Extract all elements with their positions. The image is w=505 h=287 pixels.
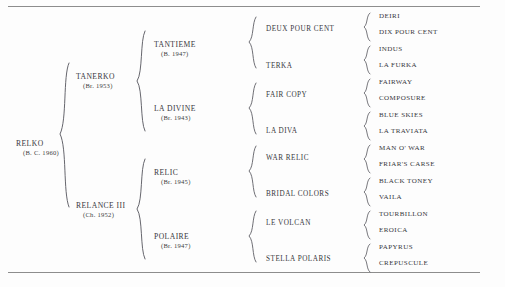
pedigree-node-blue-skies: BLUE SKIES — [379, 112, 423, 120]
node-name: RELANCE III — [76, 202, 125, 211]
node-name: INDUS — [379, 46, 403, 54]
node-name: DEIRI — [379, 13, 400, 21]
pedigree-node-vaila: VAILA — [379, 194, 402, 202]
pedigree-node-black-toney: BLACK TONEY — [379, 178, 433, 186]
brace-relic-to-gen4 — [248, 145, 259, 198]
node-name: RELIC — [154, 169, 191, 178]
node-name: DIX POUR CENT — [379, 29, 438, 37]
brace-tantieme-to-gen4 — [248, 16, 259, 69]
node-name: LA DIVINE — [154, 105, 196, 114]
brace-relance-to-gen3 — [136, 158, 148, 260]
pedigree-node-relic: RELIC (Br. 1945) — [154, 169, 191, 185]
pedigree-node-relance-iii: RELANCE III (Ch. 1952) — [76, 202, 125, 218]
brace-la-divine-to-gen4 — [248, 82, 259, 135]
pedigree-node-bridal-colors: BRIDAL COLORS — [266, 190, 329, 198]
pedigree-page: RELKO (B. C. 1960) TANERKO (Br. 1953) RE… — [0, 0, 505, 287]
brace-terka-to-gen5 — [363, 45, 372, 75]
node-name: CREPUSCULE — [379, 260, 428, 268]
brace-stella-polaris-to-gen5 — [363, 243, 372, 273]
node-name: LE VOLCAN — [266, 219, 311, 227]
brace-tanerko-to-gen3 — [136, 30, 148, 132]
node-name: TERKA — [266, 62, 292, 70]
node-name: FAIR COPY — [266, 91, 307, 99]
node-name: VAILA — [379, 194, 402, 202]
node-name: PAPYRUS — [379, 244, 413, 252]
pedigree-node-crepuscule: CREPUSCULE — [379, 260, 428, 268]
node-year: (Br. 1943) — [154, 114, 196, 121]
top-rule — [8, 6, 480, 7]
node-name: TANTIEME — [154, 41, 196, 50]
node-name: MAN O' WAR — [379, 145, 425, 153]
pedigree-node-le-volcan: LE VOLCAN — [266, 219, 311, 227]
node-name: LA DIVA — [266, 127, 298, 135]
node-name: FAIRWAY — [379, 79, 413, 87]
node-name: BLUE SKIES — [379, 112, 423, 120]
node-year: (B. C. 1960) — [16, 149, 59, 156]
node-name: DEUX POUR CENT — [266, 25, 335, 33]
pedigree-node-relko: RELKO (B. C. 1960) — [16, 140, 59, 156]
pedigree-node-la-furka: LA FURKA — [379, 62, 417, 70]
pedigree-node-composure: COMPOSURE — [379, 95, 426, 103]
node-name: LA FURKA — [379, 62, 417, 70]
node-name: FRIAR'S CARSE — [379, 161, 435, 169]
pedigree-node-fair-copy: FAIR COPY — [266, 91, 307, 99]
pedigree-node-tantieme: TANTIEME (B. 1947) — [154, 41, 196, 57]
pedigree-node-la-traviata: LA TRAVIATA — [379, 128, 428, 136]
node-name: COMPOSURE — [379, 95, 426, 103]
pedigree-node-tourbillon: TOURBILLON — [379, 211, 428, 219]
pedigree-node-tanerko: TANERKO (Br. 1953) — [76, 73, 115, 89]
node-name: LA TRAVIATA — [379, 128, 428, 136]
brace-polaire-to-gen4 — [248, 210, 259, 263]
pedigree-node-stella-polaris: STELLA POLARIS — [266, 255, 331, 263]
brace-le-volcan-to-gen5 — [363, 210, 372, 240]
node-name: BRIDAL COLORS — [266, 190, 329, 198]
brace-bridal-colors-to-gen5 — [363, 177, 372, 207]
brace-la-diva-to-gen5 — [363, 111, 372, 141]
pedigree-node-dix-pour-cent: DIX POUR CENT — [379, 29, 438, 37]
brace-fair-copy-to-gen5 — [363, 78, 372, 108]
pedigree-node-deiri: DEIRI — [379, 13, 400, 21]
brace-deux-pour-cent-to-gen5 — [363, 12, 372, 42]
pedigree-node-papyrus: PAPYRUS — [379, 244, 413, 252]
node-name: BLACK TONEY — [379, 178, 433, 186]
pedigree-node-eroica: EROICA — [379, 227, 408, 235]
node-year: (Br. 1947) — [154, 242, 191, 249]
pedigree-node-deux-pour-cent: DEUX POUR CENT — [266, 25, 335, 33]
node-year: (B. 1947) — [154, 50, 196, 57]
pedigree-node-la-divine: LA DIVINE (Br. 1943) — [154, 105, 196, 121]
node-name: STELLA POLARIS — [266, 255, 331, 263]
bottom-rule — [8, 272, 480, 273]
node-name: TANERKO — [76, 73, 115, 82]
node-year: (Br. 1953) — [76, 82, 115, 89]
pedigree-node-terka: TERKA — [266, 62, 292, 70]
node-name: TOURBILLON — [379, 211, 428, 219]
node-year: (Br. 1945) — [154, 178, 191, 185]
pedigree-node-fairway: FAIRWAY — [379, 79, 413, 87]
brace-war-relic-to-gen5 — [363, 144, 372, 174]
node-name: EROICA — [379, 227, 408, 235]
pedigree-node-war-relic: WAR RELIC — [266, 154, 309, 162]
node-name: WAR RELIC — [266, 154, 309, 162]
brace-gen1-to-gen2 — [58, 62, 72, 208]
pedigree-node-indus: INDUS — [379, 46, 403, 54]
node-name: POLAIRE — [154, 233, 191, 242]
node-name: RELKO — [16, 140, 59, 149]
pedigree-node-polaire: POLAIRE (Br. 1947) — [154, 233, 191, 249]
pedigree-node-la-diva: LA DIVA — [266, 127, 298, 135]
pedigree-node-man-o-war: MAN O' WAR — [379, 145, 425, 153]
node-year: (Ch. 1952) — [76, 211, 125, 218]
pedigree-node-friars-carse: FRIAR'S CARSE — [379, 161, 435, 169]
